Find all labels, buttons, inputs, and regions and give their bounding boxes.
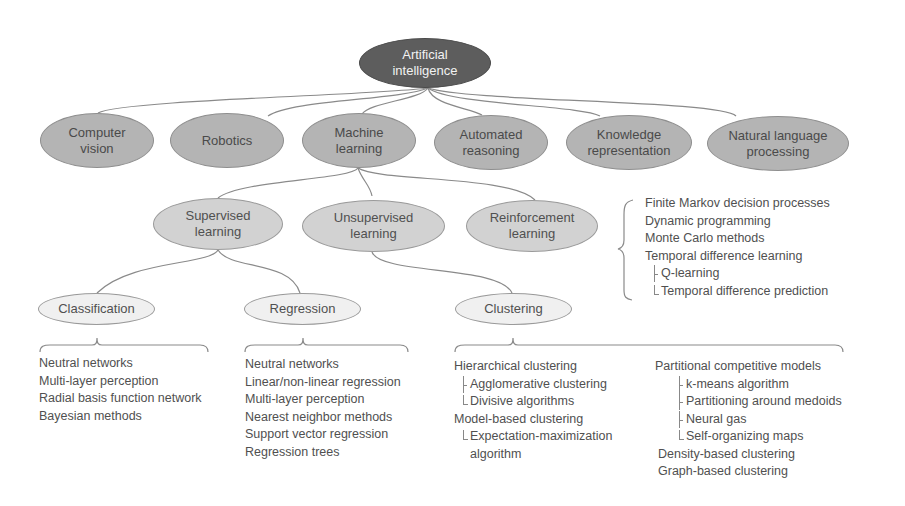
node-label: Supervised learning (185, 208, 250, 240)
list-item: Dynamic programming (645, 213, 830, 231)
node-label: Natural language processing (728, 128, 827, 160)
node-label: Machine learning (334, 125, 383, 157)
node-natural-language-processing: Natural language processing (707, 116, 849, 171)
list-item: Support vector regression (245, 426, 401, 444)
list-item: Radial basis function network (39, 390, 202, 408)
node-machine-learning: Machine learning (302, 113, 416, 168)
list-item: Linear/non-linear regression (245, 374, 401, 392)
list-subitem: Self-organizing maps (670, 428, 842, 446)
node-clustering: Clustering (455, 293, 572, 325)
list-item: Regression trees (245, 444, 401, 462)
list-item: Nearest neighbor methods (245, 409, 401, 427)
node-unsupervised-learning: Unsupervised learning (302, 200, 445, 252)
node-regression: Regression (244, 293, 361, 325)
node-artificial-intelligence: Artificial intelligence (359, 38, 491, 88)
list-item: Finite Markov decision processes (645, 195, 830, 213)
node-label: Robotics (202, 133, 253, 149)
list-subitem: Temporal difference prediction (645, 283, 830, 301)
list-item: Density-based clustering (658, 446, 842, 464)
reinforcement-methods-list: Finite Markov decision processes Dynamic… (645, 195, 830, 300)
list-subitem: Partitioning around medoids (670, 393, 842, 411)
node-label: Classification (58, 301, 135, 317)
classification-methods-list: Neutral networks Multi-layer perception … (39, 355, 202, 425)
node-supervised-learning: Supervised learning (153, 198, 283, 250)
list-item: Temporal difference learning (645, 248, 830, 266)
list-item: Neutral networks (245, 356, 401, 374)
list-item: Partitional competitive models (655, 358, 842, 376)
list-item: Hierarchical clustering (454, 358, 612, 376)
clustering-methods-right-list: Partitional competitive models k-means a… (655, 358, 842, 481)
list-subitem: Expectation-maximization (454, 428, 612, 446)
list-item: Monte Carlo methods (645, 230, 830, 248)
node-classification: Classification (38, 293, 155, 325)
node-automated-reasoning: Automated reasoning (434, 115, 548, 170)
node-robotics: Robotics (170, 113, 284, 168)
list-subitem: Agglomerative clustering (454, 376, 612, 394)
node-computer-vision: Computer vision (40, 113, 154, 168)
node-label: Knowledge representation (587, 127, 670, 159)
list-subitem: Divisive algorithms (454, 393, 612, 411)
clustering-methods-left-list: Hierarchical clustering Agglomerative cl… (454, 358, 612, 463)
node-label: Automated reasoning (460, 127, 523, 159)
node-label: Unsupervised learning (334, 210, 414, 242)
node-label: Reinforcement learning (490, 210, 575, 242)
node-label: Artificial intelligence (392, 47, 457, 79)
list-subitem: k-means algorithm (670, 376, 842, 394)
list-item: Multi-layer perception (245, 391, 401, 409)
node-label: Clustering (484, 301, 543, 317)
node-label: Regression (270, 301, 336, 317)
regression-methods-list: Neutral networks Linear/non-linear regre… (245, 356, 401, 461)
list-subitem: Neural gas (670, 411, 842, 429)
node-reinforcement-learning: Reinforcement learning (466, 200, 598, 252)
list-item: Graph-based clustering (658, 463, 842, 481)
list-item: Neutral networks (39, 355, 202, 373)
list-item: Multi-layer perception (39, 373, 202, 391)
list-item: Bayesian methods (39, 408, 202, 426)
node-knowledge-representation: Knowledge representation (566, 115, 692, 170)
list-item: Model-based clustering (454, 411, 612, 429)
list-subitem-continuation: algorithm (454, 446, 612, 464)
list-subitem: Q-learning (645, 265, 830, 283)
node-label: Computer vision (68, 125, 125, 157)
